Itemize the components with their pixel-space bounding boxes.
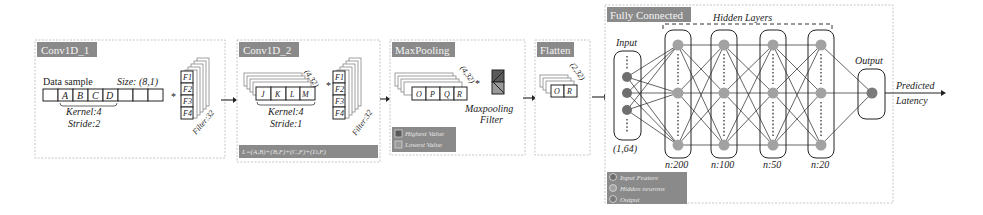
maxpooling-filter-label-1: Maxpooling bbox=[464, 103, 513, 114]
filter2-cell-3: F3 bbox=[334, 97, 344, 106]
hidden-layer-3-size: n:50 bbox=[763, 159, 781, 170]
stride-label: Stride:2 bbox=[68, 118, 100, 129]
predicted-label: Predicted bbox=[895, 80, 936, 91]
data-sample-label: Data sample bbox=[43, 76, 93, 87]
prediction-arrow: Predicted Latency bbox=[885, 80, 946, 106]
conv1d-1-panel: Conv1D_1 Data sample Size: (8,1) A B C D… bbox=[35, 40, 225, 158]
cell-m: M bbox=[301, 90, 310, 99]
cell-b: B bbox=[77, 90, 83, 101]
highest-value-label: Highest Value bbox=[404, 130, 444, 138]
cell-a: A bbox=[61, 90, 69, 101]
convolution-operator-2: * bbox=[326, 80, 331, 91]
maxpooling-tag-label: MaxPooling bbox=[395, 44, 450, 56]
filter-cell-1: F1 bbox=[182, 73, 192, 82]
fully-connected-panel: Fully Connected Hidden Layers I bbox=[605, 5, 893, 204]
maxpooling-filter-label-2: Filter bbox=[479, 114, 503, 125]
hidden-neurons-label: Hidden neurons bbox=[619, 185, 665, 193]
cell-r: R bbox=[456, 90, 462, 99]
highest-value-swatch bbox=[395, 130, 402, 137]
hidden-layer-1-size: n:200 bbox=[665, 159, 688, 170]
arrow-conv2-to-maxpool bbox=[380, 96, 390, 102]
cell-q: Q bbox=[444, 90, 450, 99]
filter2-cell-1: F1 bbox=[334, 73, 344, 82]
input-label: Input bbox=[615, 37, 637, 48]
cell-j: J bbox=[261, 90, 265, 99]
stride-label-2: Stride:1 bbox=[270, 118, 302, 129]
flatten-cell-r: R bbox=[566, 87, 572, 96]
cell-p: P bbox=[429, 90, 435, 99]
hidden-layer-4-size: n:20 bbox=[811, 159, 829, 170]
lowest-value-swatch bbox=[395, 141, 402, 148]
cell-o: O bbox=[416, 90, 422, 99]
output-node bbox=[867, 88, 878, 99]
filter-cell-4: F4 bbox=[182, 109, 192, 118]
output-legend-label: Output bbox=[620, 196, 641, 204]
size-label: Size: (8,1) bbox=[117, 76, 159, 88]
input-node bbox=[622, 72, 632, 82]
formula-text: L=(A,B)+(B,F)+(C,F)+(D,F) bbox=[241, 148, 326, 156]
maxpooling-filter-icon bbox=[492, 70, 504, 94]
filter-cell-3: F3 bbox=[182, 97, 192, 106]
filter2-cell-4: F4 bbox=[334, 109, 344, 118]
cell-c: C bbox=[92, 90, 99, 101]
output-label: Output bbox=[855, 55, 883, 66]
cell-l: L bbox=[289, 90, 295, 99]
input-node bbox=[622, 88, 632, 98]
input-feature-label: Input Feature bbox=[619, 174, 658, 182]
lowest-value-label: Lowest Value bbox=[404, 141, 442, 149]
filter2-cell-2: F2 bbox=[334, 85, 344, 94]
kernel-label-2: Kernel:4 bbox=[267, 106, 304, 117]
input-shape-label: (1,64) bbox=[613, 143, 638, 155]
cell-k: K bbox=[274, 90, 281, 99]
hidden-layer-2-size: n:100 bbox=[711, 159, 734, 170]
conv1d-1-tag-label: Conv1D_1 bbox=[41, 44, 89, 56]
fc-legend: Input Feature Hidden neurons Output bbox=[607, 172, 687, 204]
pooling-operator: * bbox=[475, 78, 480, 89]
convolution-operator: * bbox=[171, 91, 176, 102]
hidden-neurons-swatch bbox=[610, 185, 617, 192]
input-node bbox=[622, 105, 632, 115]
kernel-label: Kernel:4 bbox=[65, 106, 102, 117]
filter-cell-2: F2 bbox=[182, 85, 192, 94]
maxpool-legend: Highest Value Lowest Value bbox=[392, 127, 456, 152]
flatten-tag-label: Flatten bbox=[540, 44, 571, 56]
conv1d-2-panel: Conv1D_2 J K L M (4,32) Kernel:4 Stride:… bbox=[237, 40, 380, 162]
fully-connected-tag-label: Fully Connected bbox=[610, 9, 684, 21]
input-feature-swatch bbox=[610, 174, 617, 181]
conv1d-2-tag-label: Conv1D_2 bbox=[243, 44, 291, 56]
cell-d: D bbox=[105, 90, 114, 101]
flatten-panel: Flatten O R (2,32) bbox=[535, 40, 590, 155]
cnn-architecture-diagram: Conv1D_1 Data sample Size: (8,1) A B C D… bbox=[0, 0, 983, 215]
flatten-cell-o: O bbox=[554, 87, 560, 96]
hidden-layers-label: Hidden Layers bbox=[712, 12, 772, 23]
feature-map-stack: J K L M (4,32) bbox=[244, 68, 321, 105]
maxpooling-panel: MaxPooling O P Q R (4,32) * Maxpooling F… bbox=[390, 40, 525, 155]
output-swatch bbox=[610, 196, 617, 203]
latency-label: Latency bbox=[895, 95, 928, 106]
